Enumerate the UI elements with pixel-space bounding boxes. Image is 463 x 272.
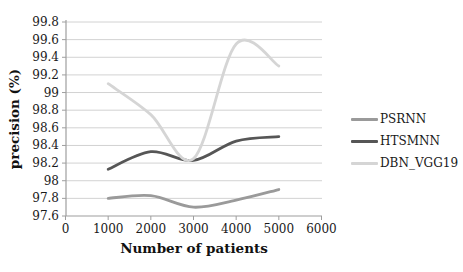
x-tick-label: 2000 bbox=[136, 222, 167, 236]
x-tick-label: 0 bbox=[62, 222, 70, 236]
precision-line-chart: 97.697.89898.298.498.698.89999.299.499.6… bbox=[0, 0, 463, 272]
gridlines bbox=[66, 22, 322, 198]
x-tick-label: 4000 bbox=[221, 222, 252, 236]
y-tick-label: 98.2 bbox=[32, 156, 59, 170]
legend-label-dbn-vgg19: DBN_VGG19 bbox=[380, 156, 458, 170]
x-axis-title: Number of patients bbox=[120, 240, 268, 256]
x-tick-label: 1000 bbox=[93, 222, 124, 236]
y-axis-title: precision (%) bbox=[6, 69, 22, 169]
x-tick-label: 5000 bbox=[264, 222, 295, 236]
legend-item-dbn-vgg19: DBN_VGG19 bbox=[351, 156, 458, 170]
series-line-dbn_vgg19 bbox=[108, 40, 279, 161]
y-tick-label: 99.2 bbox=[32, 68, 59, 82]
axes bbox=[62, 20, 322, 220]
y-tick-label: 97.6 bbox=[32, 209, 59, 223]
legend-line-swatch-dbn-vgg19 bbox=[351, 162, 378, 165]
y-tick-label: 98.4 bbox=[32, 138, 59, 152]
y-tick-label: 98.6 bbox=[32, 121, 59, 135]
tick-labels: 97.697.89898.298.498.698.89999.299.499.6… bbox=[32, 15, 336, 236]
y-tick-label: 99.6 bbox=[32, 33, 59, 47]
legend-line-swatch-htsmnn bbox=[351, 140, 378, 143]
series-lines bbox=[108, 40, 279, 207]
y-tick-label: 97.8 bbox=[32, 191, 59, 205]
legend-line-swatch-psrnn bbox=[351, 118, 378, 121]
y-tick-label: 98 bbox=[44, 174, 59, 188]
legend-label-psrnn: PSRNN bbox=[380, 112, 426, 126]
y-tick-label: 99.4 bbox=[32, 50, 59, 64]
y-tick-label: 99 bbox=[44, 86, 59, 100]
legend-item-psrnn: PSRNN bbox=[351, 112, 458, 126]
y-tick-label: 98.8 bbox=[32, 103, 59, 117]
y-tick-label: 99.8 bbox=[32, 15, 59, 29]
series-line-htsmnn bbox=[108, 137, 279, 170]
legend-item-htsmnn: HTSMNN bbox=[351, 134, 458, 148]
x-tick-label: 6000 bbox=[306, 222, 337, 236]
x-tick-label: 3000 bbox=[178, 222, 209, 236]
chart-legend: PSRNN HTSMNN DBN_VGG19 bbox=[351, 112, 458, 170]
legend-label-htsmnn: HTSMNN bbox=[380, 134, 440, 148]
